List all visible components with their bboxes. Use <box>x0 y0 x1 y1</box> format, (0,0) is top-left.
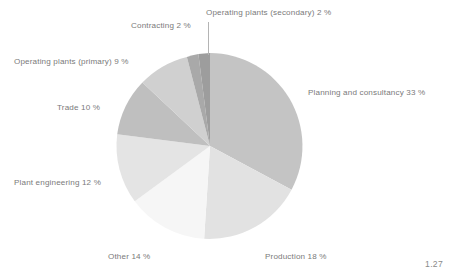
pie-label-other: Other 14 % <box>108 252 150 262</box>
pie-label-operating-plants-primary: Operating plants (primary) 9 % <box>14 57 129 67</box>
pie-label-trade: Trade 10 % <box>57 103 100 113</box>
figure-number: 1.27 <box>425 259 443 269</box>
pie-chart-figure: Planning and consultancy 33 % Production… <box>0 0 449 274</box>
pie-label-contracting: Contracting 2 % <box>131 21 191 31</box>
pie-label-planning-and-consultancy: Planning and consultancy 33 % <box>308 88 425 98</box>
pie-label-plant-engineering: Plant engineering 12 % <box>14 178 101 188</box>
pie-chart-graphic <box>0 0 449 274</box>
pie-label-production: Production 18 % <box>265 252 327 262</box>
pie-label-operating-plants-secondary: Operating plants (secondary) 2 % <box>206 8 331 18</box>
